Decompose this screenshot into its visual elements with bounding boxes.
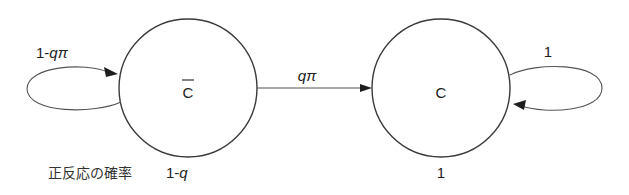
state-transition-diagram: C C 1-qπ qπ 1 正反応の確率 1-q 1 xyxy=(0,0,629,195)
arrowhead-icon xyxy=(104,67,118,77)
node-c: C xyxy=(372,19,510,157)
edge-label-transition: qπ xyxy=(298,67,317,84)
node-c-bar-label: C xyxy=(183,84,194,101)
edge-self-loop-c: 1 xyxy=(510,43,602,110)
node-c-bar: C xyxy=(119,19,257,157)
correct-response-probability-label: 正反応の確率 xyxy=(48,165,132,181)
edge-c-bar-to-c: qπ xyxy=(257,67,372,92)
edge-self-loop-c-bar: 1-qπ xyxy=(27,44,121,110)
node-c-label: C xyxy=(436,84,447,101)
node-c-probability-value: 1 xyxy=(437,164,445,181)
edge-label-loop-c: 1 xyxy=(544,43,552,60)
edge-label-loop-c-bar: 1-qπ xyxy=(36,44,69,61)
node-c-bar-probability-value: 1-q xyxy=(166,164,188,181)
arrowhead-icon xyxy=(360,84,372,92)
arrowhead-icon xyxy=(513,100,526,110)
